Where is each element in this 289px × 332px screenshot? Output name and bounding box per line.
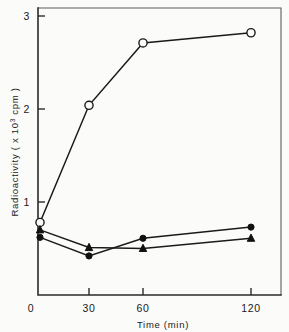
data-series-layer <box>36 29 255 259</box>
x-axis-title: Time (min) <box>137 319 189 330</box>
chart-canvas: 1 2 3 0 30 60 120 Time (min) Radioactivi… <box>0 0 289 332</box>
data-point-open-circle <box>247 29 255 37</box>
y-axis-ticks <box>38 16 45 202</box>
y-axis-title: Radioactivity ( x 103 cpm ) <box>9 87 21 216</box>
plot-frame <box>38 8 281 295</box>
x-tick-label: 30 <box>83 302 96 314</box>
data-point-filled-circle <box>248 224 254 230</box>
y-tick-label: 3 <box>24 10 30 22</box>
x-tick-label: 60 <box>137 302 150 314</box>
data-point-filled-triangle <box>247 234 254 241</box>
data-point-filled-circle <box>140 235 146 241</box>
y-tick-label: 2 <box>24 103 30 115</box>
y-tick-label: 1 <box>24 196 30 208</box>
x-axis-ticks <box>89 288 251 295</box>
data-point-open-circle <box>85 101 93 109</box>
y-axis-title-tail: cpm ) <box>9 87 20 118</box>
axes <box>38 8 281 295</box>
figure-root: 1 2 3 0 30 60 120 Time (min) Radioactivi… <box>0 0 289 332</box>
x-tick-label: 120 <box>241 302 260 314</box>
x-tick-label: 0 <box>28 302 34 314</box>
svg-text:Radioactivity ( x 103 cpm ): Radioactivity ( x 103 cpm ) <box>9 87 21 216</box>
series-open-circle <box>36 29 255 227</box>
data-point-filled-circle <box>37 234 43 240</box>
data-point-open-circle <box>139 39 147 47</box>
series-line <box>40 33 251 223</box>
y-axis-title-main: Radioactivity ( x 10 <box>9 122 20 216</box>
data-point-filled-circle <box>86 253 92 259</box>
